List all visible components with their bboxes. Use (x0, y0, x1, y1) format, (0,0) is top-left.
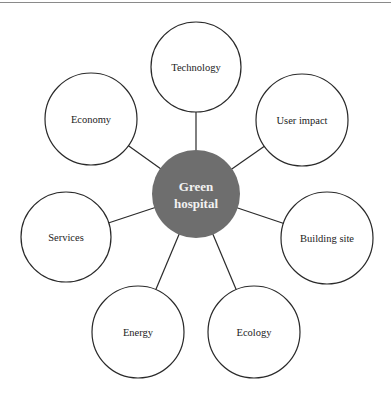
mind-map-diagram: TechnologyUser impactBuilding siteEcolog… (0, 0, 391, 394)
node-label: Building site (300, 233, 354, 244)
hub-circle (152, 150, 240, 238)
node-label: Energy (123, 327, 154, 338)
node-energy: Energy (92, 286, 184, 378)
node-ecology: Ecology (208, 286, 300, 378)
node-label: Economy (71, 114, 112, 125)
node-label: Technology (171, 62, 221, 73)
node-services: Services (21, 192, 111, 282)
node-economy: Economy (45, 73, 137, 165)
node-building-site: Building site (281, 192, 373, 284)
node-technology: Technology (151, 22, 241, 112)
hub-label-line1: Green (179, 179, 214, 194)
node-label: User impact (276, 115, 327, 126)
node-user-impact: User impact (256, 74, 348, 166)
hub-node: Green hospital (152, 150, 240, 238)
node-label: Services (48, 232, 84, 243)
hub-label-line2: hospital (174, 196, 218, 211)
node-label: Ecology (237, 327, 273, 338)
